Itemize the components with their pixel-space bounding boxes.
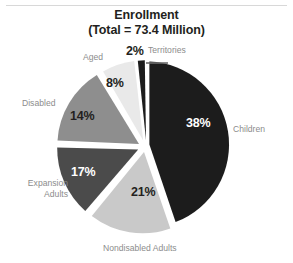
- slice-label-nondisabled-adults: Nondisabled Adults: [103, 243, 177, 254]
- pie-chart: 38% 21% 17% 14% 8% 2% Territories Aged D…: [0, 0, 293, 263]
- slice-label-expansion-adults-line1: Expansion: [8, 178, 68, 189]
- slice-label-children: Children: [233, 124, 265, 135]
- slice-label-territories: Territories: [148, 45, 186, 56]
- slice-label-aged: Aged: [83, 52, 103, 63]
- slice-label-expansion-adults: Expansion Adults: [8, 178, 68, 199]
- slice-label-disabled: Disabled: [22, 98, 55, 109]
- slice-value-disabled: 14%: [70, 109, 94, 123]
- slice-value-territories: 2%: [126, 44, 144, 58]
- slice-value-children: 38%: [186, 116, 210, 130]
- slice-label-expansion-adults-line2: Adults: [8, 189, 68, 200]
- pie-slice-children[interactable]: [149, 62, 229, 223]
- chart-page: Enrollment (Total = 73.4 Million) 38% 21…: [0, 0, 293, 263]
- slice-value-expansion-adults: 17%: [71, 165, 95, 179]
- slice-value-nondisabled-adults: 21%: [131, 185, 155, 199]
- slice-value-aged: 8%: [106, 76, 124, 90]
